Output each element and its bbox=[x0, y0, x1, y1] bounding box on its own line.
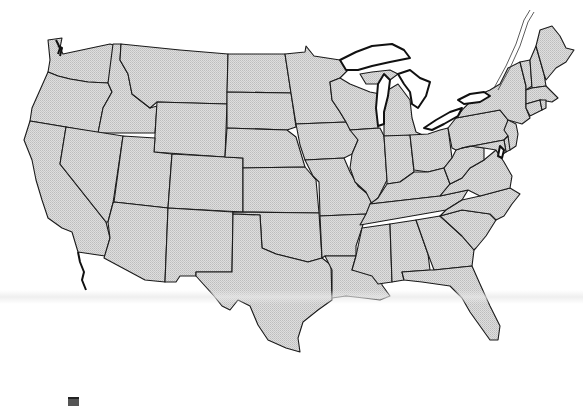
scan-artifact-band bbox=[0, 290, 583, 304]
state-south-dakota bbox=[227, 92, 296, 130]
chesapeake-bay bbox=[498, 146, 504, 158]
lake-superior bbox=[340, 44, 410, 70]
state-new-mexico bbox=[165, 208, 233, 282]
corner-mark bbox=[68, 397, 79, 406]
state-colorado bbox=[168, 154, 243, 212]
state-wyoming bbox=[154, 102, 227, 157]
baja-coast-line bbox=[78, 252, 86, 290]
state-north-dakota bbox=[227, 54, 291, 93]
state-arizona bbox=[104, 202, 168, 282]
state-kansas bbox=[243, 167, 319, 213]
